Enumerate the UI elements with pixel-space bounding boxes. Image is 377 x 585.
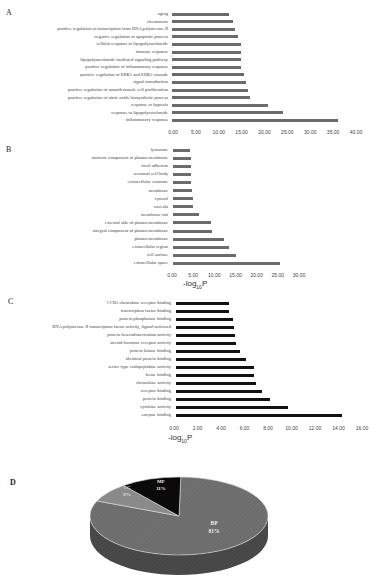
bar-label-wrap: intrinsic component of plasma membrane (0, 154, 168, 162)
pie-label-cc-pct: 8% (123, 492, 131, 497)
bar (173, 230, 212, 233)
bar-row: protein kinase binding (0, 347, 377, 355)
bar-category-label: serine-type endopeptidase activity (108, 363, 171, 371)
bar-row: receptor binding (0, 387, 377, 395)
x-axis-ticks: 0.005.0010.0015.0020.0025.0030.0035.0040… (0, 129, 377, 137)
bar (176, 358, 246, 361)
bar-label-wrap: identical protein binding (0, 355, 171, 363)
bar-category-label: cytosol (155, 195, 168, 203)
bar (172, 119, 338, 122)
bar (172, 35, 238, 38)
bar-category-label: membrane (149, 187, 168, 195)
bar (173, 238, 224, 241)
bar-category-label: caveola (154, 203, 168, 211)
pie-label-cc-name: CC (123, 485, 131, 490)
x-tick-label: 0.00 (169, 425, 179, 431)
bar (176, 390, 262, 393)
bar (172, 28, 235, 31)
bar-row: external side of plasma membrane (0, 219, 377, 227)
bar (173, 197, 193, 200)
bar (173, 262, 280, 265)
bar-category-label: receptor binding (141, 387, 171, 395)
bar-row: membrane raft (0, 211, 377, 219)
x-tick-label: 4.00 (216, 425, 226, 431)
bar-category-label: external side of plasma membrane (105, 219, 168, 227)
bar-category-label: inflammatory response (126, 116, 168, 124)
panel-c-x-axis-label: -log10P (168, 433, 192, 444)
x-tick-label: 14.00 (332, 425, 345, 431)
bar (176, 406, 288, 409)
bar-label-wrap: protein heterodimerization activity (0, 331, 171, 339)
bar-label-wrap: enzyme binding (0, 411, 171, 419)
x-tick-label: 0.00 (168, 129, 178, 135)
x-axis-ticks: 0.002.004.006.008.0010.0012.0014.0016.00 (0, 425, 377, 433)
bar-row: plasma membrane (0, 235, 377, 243)
bar-row: extracellular exosome (0, 178, 377, 186)
bar (173, 246, 229, 249)
x-axis-label-text: -log (168, 433, 181, 442)
bar-row: cytokine activity (0, 403, 377, 411)
bar-row: cytosol (0, 195, 377, 203)
x-tick-label: 5.00 (188, 272, 198, 278)
bar-category-label: membrane raft (141, 211, 168, 219)
bar (176, 310, 229, 313)
bar (172, 81, 246, 84)
x-tick-label: 0.00 (167, 272, 177, 278)
bar-label-wrap: receptor binding (0, 387, 171, 395)
x-tick-label: 30.00 (293, 272, 306, 278)
bar-row: protein phosphatase binding (0, 315, 377, 323)
bar-category-label: extracellular space (134, 259, 168, 267)
bar-category-label: lysosome (151, 146, 168, 154)
bar (172, 13, 229, 16)
x-axis-label-end: P (202, 279, 207, 288)
bar-category-label: RNA polymerase II transcription factor a… (52, 323, 171, 331)
bar-category-label: chemokine activity (136, 379, 171, 387)
bar-row: enzyme binding (0, 411, 377, 419)
bar-label-wrap: lysosome (0, 146, 168, 154)
bar (172, 66, 241, 69)
bar-row: integral component of plasma membrane (0, 227, 377, 235)
bar-label-wrap: plasma membrane (0, 235, 168, 243)
bar-label-wrap: chemokine activity (0, 379, 171, 387)
x-tick-label: 25.00 (272, 272, 285, 278)
bar-row: serine-type endopeptidase activity (0, 363, 377, 371)
bar (173, 189, 192, 192)
bar-row: lysosome (0, 146, 377, 154)
bar-label-wrap: extracellular exosome (0, 178, 168, 186)
bar (172, 96, 250, 99)
bar-row: CCR5 chemokine receptor binding (0, 299, 377, 307)
x-tick-label: 10.00 (212, 129, 225, 135)
bar-category-label: heme binding (146, 371, 171, 379)
bar (176, 350, 240, 353)
bar-category-label: protein heterodimerization activity (107, 331, 171, 339)
bar (173, 173, 191, 176)
x-tick-label: 10.00 (208, 272, 221, 278)
bar-label-wrap: serine-type endopeptidase activity (0, 363, 171, 371)
x-tick-label: 15.00 (235, 129, 248, 135)
bar-row: neuronal cell body (0, 170, 377, 178)
bar (173, 213, 199, 216)
bar (176, 334, 235, 337)
bar-label-wrap: protein binding (0, 395, 171, 403)
pie-label-mf-name: MF (157, 479, 165, 484)
bar-category-label: protein phosphatase binding (119, 315, 171, 323)
bar (173, 221, 211, 224)
x-tick-label: 10.00 (285, 425, 298, 431)
bar (172, 111, 283, 114)
bar-category-label: integral component of plasma membrane (93, 227, 168, 235)
bar-label-wrap: membrane raft (0, 211, 168, 219)
bar (176, 398, 270, 401)
bar-category-label: transcription factor binding (121, 307, 171, 315)
x-tick-label: 5.00 (191, 129, 201, 135)
bar-row: caveola (0, 203, 377, 211)
bar (172, 73, 244, 76)
bar-category-label: extracellular exosome (128, 178, 168, 186)
x-tick-label: 12.00 (309, 425, 322, 431)
x-tick-label: 40.00 (350, 129, 363, 135)
bar-row: steroid hormone receptor activity (0, 339, 377, 347)
bar-label-wrap: transcription factor binding (0, 307, 171, 315)
bar-category-label: enzyme binding (142, 411, 171, 419)
bar-row: chemokine activity (0, 379, 377, 387)
x-tick-label: 6.00 (240, 425, 250, 431)
bar (172, 104, 268, 107)
